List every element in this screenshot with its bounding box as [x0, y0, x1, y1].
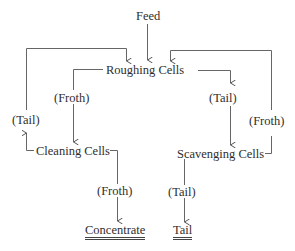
final-tail-product: Tail: [173, 223, 192, 240]
cleaner-tail-label: (Tail): [12, 113, 40, 127]
cleaner-tail-line: [27, 133, 35, 151]
cleaning-cells-node: Cleaning Cells: [36, 144, 110, 158]
cleaner-froth-line: [110, 151, 118, 185]
rougher-froth-line: [74, 70, 104, 91]
feed-label: Feed: [136, 9, 160, 23]
roughing-cells-node: Roughing Cells: [106, 63, 184, 77]
scavenging-cells-node: Scavenging Cells: [177, 147, 264, 161]
scavenger-froth-line: [265, 136, 272, 154]
rougher-froth-label: (Froth): [54, 91, 89, 105]
concentrate-product: Concentrate: [85, 223, 145, 240]
rougher-tail-line: [198, 71, 231, 84]
rougher-tail-label: (Tail): [209, 91, 237, 105]
scavenger-tail-label: (Tail): [168, 185, 196, 199]
scavenger-froth-label: (Froth): [249, 114, 284, 128]
cleaner-froth-label: (Froth): [97, 184, 132, 198]
